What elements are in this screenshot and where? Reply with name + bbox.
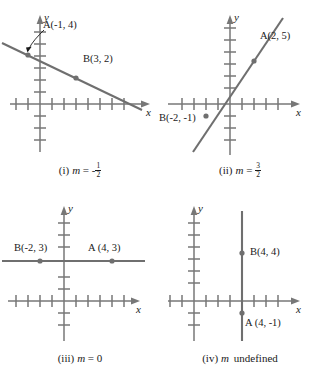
panel-iii: x y B(-2, 3) A (4, 3) (iii)m = 0 (0, 189, 160, 379)
point-marker-a (25, 52, 30, 57)
panel-iii-axes (0, 189, 160, 349)
y-axis-arrowhead (191, 206, 198, 215)
panel-iv-caption-roman: (iv) (202, 352, 218, 364)
point-label-a: A (4, 3) (88, 242, 120, 253)
point-label-a: A (4, -1) (245, 317, 281, 328)
x-axis-label: x (296, 106, 301, 118)
annotation-arrow (29, 30, 45, 50)
panel-i-caption-roman: (i) (59, 164, 69, 176)
slope-figure: x y A(-1, 4) B(3, 2) (i)m = -12 (0, 0, 320, 379)
panel-i-caption-m: m (69, 164, 80, 176)
panel-i: x y A(-1, 4) B(3, 2) (i)m = -12 (0, 0, 160, 190)
point-marker-b (239, 250, 244, 255)
point-marker-b (203, 113, 208, 118)
panel-iv: x y B(4, 4) A (4, -1) (iv)m undefined (160, 189, 320, 379)
point-label-b: B(-2, -1) (159, 112, 196, 123)
point-marker-a (239, 310, 244, 315)
graph-line (2, 43, 142, 110)
panel-ii-caption-m: m (233, 164, 244, 176)
panel-ii-caption-roman: (ii) (219, 164, 232, 176)
y-axis-arrowhead (227, 15, 234, 24)
panel-ii-axes (160, 0, 320, 160)
panel-iv-slope-value: undefined (232, 352, 278, 364)
point-label-a: A(-1, 4) (43, 19, 77, 30)
panel-i-slope-denominator: 2 (95, 171, 101, 179)
x-axis-label: x (136, 303, 141, 315)
point-marker-b (73, 75, 78, 80)
y-axis-label: y (198, 202, 203, 214)
panel-ii: x y A(2, 5) B(-2, -1) (ii)m = 32 (160, 0, 320, 190)
point-label-a: A(2, 5) (260, 30, 290, 41)
panel-iii-slope-value: 0 (97, 352, 103, 364)
panel-ii-caption-eq: = (246, 164, 252, 176)
y-axis-label: y (234, 11, 239, 23)
panel-iii-caption-eq: = (88, 352, 94, 364)
point-label-b: B(3, 2) (83, 53, 113, 64)
point-marker-a (251, 58, 256, 63)
point-label-b: B(4, 4) (250, 246, 280, 257)
panel-iii-caption: (iii)m = 0 (0, 352, 160, 364)
x-axis-label: x (296, 303, 301, 315)
panel-i-caption-eq: = (83, 164, 89, 176)
point-marker-b (37, 258, 42, 263)
annotation-arrowhead (26, 47, 32, 53)
panel-iv-plot: x y B(4, 4) A (4, -1) (160, 189, 320, 349)
panel-iii-plot: x y B(-2, 3) A (4, 3) (0, 189, 160, 349)
panel-i-plot: x y A(-1, 4) B(3, 2) (0, 0, 160, 160)
panel-ii-slope-denominator: 2 (255, 171, 261, 179)
point-label-b: B(-2, 3) (14, 242, 47, 253)
panel-iv-axes (160, 189, 320, 349)
panel-i-slope-fraction: 12 (95, 162, 101, 178)
panel-iii-caption-roman: (iii) (58, 352, 75, 364)
panel-i-caption: (i)m = -12 (0, 162, 160, 178)
panel-ii-caption: (ii)m = 32 (160, 162, 320, 178)
panel-iv-caption-m: m (218, 352, 229, 364)
x-axis-label: x (146, 106, 151, 118)
y-axis-arrowhead (61, 206, 68, 215)
panel-iv-caption: (iv)m undefined (160, 352, 320, 364)
y-axis-label: y (68, 202, 73, 214)
panel-i-axes (0, 0, 160, 160)
panel-ii-slope-fraction: 32 (255, 162, 261, 178)
panel-iii-caption-m: m (74, 352, 85, 364)
panel-ii-plot: x y A(2, 5) B(-2, -1) (160, 0, 320, 160)
point-marker-a (109, 258, 114, 263)
